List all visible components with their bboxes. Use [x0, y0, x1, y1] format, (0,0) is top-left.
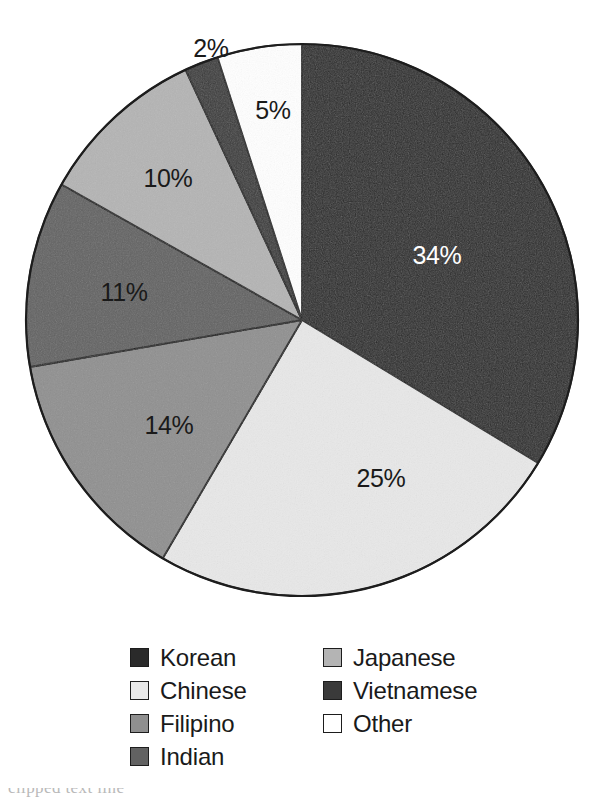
- swatch-filipino-icon: [130, 714, 149, 733]
- swatch-chinese-icon: [130, 681, 149, 700]
- legend-item-japanese[interactable]: Japanese: [323, 641, 477, 674]
- legend-label-other: Other: [353, 712, 412, 736]
- legend-item-filipino[interactable]: Filipino: [130, 707, 247, 740]
- swatch-japanese-icon: [323, 648, 342, 667]
- swatch-indian-icon: [130, 747, 149, 766]
- legend-item-other[interactable]: Other: [323, 707, 477, 740]
- legend-label-vietnamese: Vietnamese: [353, 679, 477, 703]
- legend-label-korean: Korean: [160, 646, 236, 670]
- legend-column-right: JapaneseVietnameseOther: [323, 641, 477, 740]
- legend-item-indian[interactable]: Indian: [130, 740, 247, 773]
- pie-chart-figure: 34%25%14%11%10%2%5% KoreanChineseFilipin…: [0, 0, 599, 805]
- clipped-caption-text: clipped text line: [8, 788, 124, 798]
- swatch-korean-icon: [130, 648, 149, 667]
- legend-label-indian: Indian: [160, 745, 224, 769]
- pie-chart-svg: [0, 0, 599, 615]
- legend-label-filipino: Filipino: [160, 712, 234, 736]
- swatch-vietnamese-icon: [323, 681, 342, 700]
- clipped-caption-strip: clipped text line: [0, 788, 599, 805]
- legend-column-left: KoreanChineseFilipinoIndian: [130, 641, 247, 773]
- legend-label-japanese: Japanese: [353, 646, 456, 670]
- legend-item-chinese[interactable]: Chinese: [130, 674, 247, 707]
- pie-slices: [26, 44, 578, 596]
- legend-item-vietnamese[interactable]: Vietnamese: [323, 674, 477, 707]
- legend-item-korean[interactable]: Korean: [130, 641, 247, 674]
- swatch-other-icon: [323, 714, 342, 733]
- pie-chart-area: 34%25%14%11%10%2%5%: [0, 0, 599, 615]
- legend-label-chinese: Chinese: [160, 679, 247, 703]
